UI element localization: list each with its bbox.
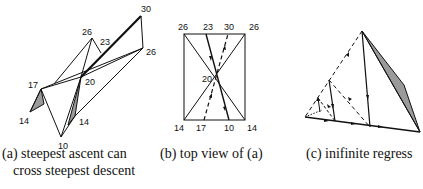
- label-top-26-left: 26: [178, 22, 188, 32]
- label-26-right: 26: [146, 47, 156, 57]
- caption-b: (b) top view of (a): [160, 146, 263, 162]
- label-17: 17: [28, 80, 38, 90]
- right-edge: [362, 31, 420, 132]
- arrow-up-icon: [316, 97, 320, 101]
- label-bottom-14-right: 14: [247, 123, 257, 133]
- label-26-top: 26: [82, 27, 92, 37]
- label-center-20: 20: [202, 74, 212, 84]
- label-bottom-14-left: 14: [174, 123, 184, 133]
- label-14-left: 14: [19, 116, 29, 126]
- figure-c-regress: [305, 31, 420, 132]
- arrow-up-icon: [348, 97, 352, 101]
- arrow-down-icon: [209, 56, 212, 61]
- figure-a-labels: 30 26 26 23 20 17 14 14 10: [19, 4, 156, 151]
- caption-a-line1: (a) steepest ascent can: [2, 146, 127, 162]
- base-edge: [305, 117, 420, 132]
- arrow-up-icon: [209, 93, 212, 98]
- label-14-right: 14: [79, 117, 89, 127]
- label-20: 20: [85, 77, 95, 87]
- label-bottom-10: 10: [224, 123, 234, 133]
- label-30: 30: [141, 4, 151, 14]
- label-top-23: 23: [203, 22, 213, 32]
- label-bottom-17: 17: [196, 123, 206, 133]
- label-23: 23: [100, 37, 110, 47]
- arrow-up-icon: [327, 104, 331, 108]
- figure-b-top-view: [184, 34, 245, 120]
- caption-a-line2: cross steepest descent: [13, 163, 135, 179]
- label-top-26-right: 26: [249, 22, 259, 32]
- descent-line-1: [362, 31, 370, 127]
- label-top-30: 30: [224, 22, 234, 32]
- caption-c: (c) inifinite regress: [306, 146, 413, 162]
